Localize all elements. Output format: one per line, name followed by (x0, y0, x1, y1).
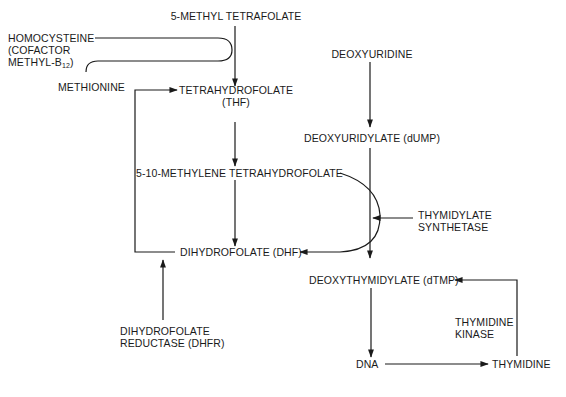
label-methionine: METHIONINE (58, 81, 125, 93)
label-methyl-b12: METHYL-B12) (8, 56, 74, 72)
label-dhfr-line2: REDUCTASE (DHFR) (120, 337, 225, 349)
label-cofactor: (COFACTOR (8, 44, 71, 56)
label-thymidylate-synthetase: THYMIDYLATE (418, 209, 492, 221)
label-dtmp: DEOXYTHYMIDYLATE (dTMP) (309, 274, 459, 286)
label-dump: DEOXYURIDYLATE (dUMP) (304, 132, 440, 144)
label-dna: DNA (356, 358, 378, 370)
label-deoxyuridine: DEOXYURIDINE (331, 48, 412, 60)
label-kinase: KINASE (455, 328, 494, 340)
label-dhfr: DIHYDROFOLATE (120, 325, 210, 337)
arrow-homocysteine-to-methionine (86, 38, 232, 72)
label-tetrahydrofolate: TETRAHYDROFOLATE (179, 84, 293, 96)
label-thymidine-kinase: THYMIDINE (455, 316, 514, 328)
label-thymidine: THYMIDINE (492, 358, 551, 370)
label-homocysteine: HOMOCYSTEINE (8, 32, 94, 44)
label-dihydrofolate: DIHYDROFOLATE (DHF) (180, 246, 302, 258)
label-synthetase: SYNTHETASE (418, 221, 488, 233)
label-thf-abbr: (THF) (222, 96, 250, 108)
arrow-methylenethf-curve-to-dhf (300, 173, 380, 252)
label-5-methyl-tetrafolate: 5-METHYL TETRAFOLATE (171, 10, 302, 22)
label-5-10-methylene-thf: 5-10-METHYLENE TETRAHYDROFOLATE (136, 167, 343, 179)
